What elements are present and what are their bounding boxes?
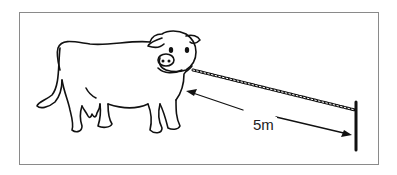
cow-nostril — [162, 60, 165, 63]
cow-nostril — [168, 60, 171, 63]
cow-illustration — [37, 31, 200, 133]
cow-eye-right — [185, 47, 189, 53]
distance-label: 5m — [250, 117, 277, 132]
diagram-scene — [0, 0, 397, 175]
cow-eye-left — [169, 47, 173, 53]
arrowhead-left — [186, 89, 197, 96]
chain — [193, 70, 355, 110]
arrowhead-right — [341, 130, 352, 137]
